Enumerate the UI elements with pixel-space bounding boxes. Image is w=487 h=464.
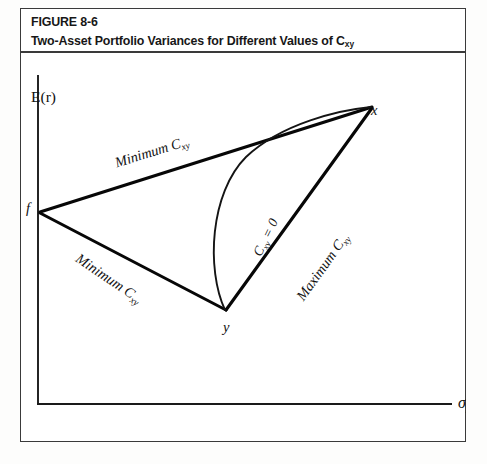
figure-caption: Two-Asset Portfolio Variances for Differ… xyxy=(31,32,465,51)
figure-plot-area: E(r) σp f x y Minimum Cxy Minimum Cxy Ma… xyxy=(20,53,466,442)
figure-number: FIGURE 8-6 xyxy=(31,13,465,32)
point-label-y: y xyxy=(223,319,229,336)
point-label-f: f xyxy=(26,200,30,217)
minimum-cxy-upper-line xyxy=(40,107,372,212)
y-axis-label: E(r) xyxy=(31,88,56,106)
figure-page: FIGURE 8-6 Two-Asset Portfolio Variances… xyxy=(0,0,487,464)
x-axis-label-symbol: σ xyxy=(458,394,466,411)
figure-title-box: FIGURE 8-6 Two-Asset Portfolio Variances… xyxy=(20,8,466,53)
figure-caption-text: Two-Asset Portfolio Variances for Differ… xyxy=(31,34,345,48)
point-label-x: x xyxy=(371,102,377,119)
cxy-zero-curve xyxy=(214,107,371,310)
maximum-cxy-line xyxy=(226,108,372,310)
figure-caption-subscript: xy xyxy=(345,39,354,49)
x-axis-label: σp xyxy=(458,394,466,412)
portfolio-variance-diagram xyxy=(20,53,466,442)
